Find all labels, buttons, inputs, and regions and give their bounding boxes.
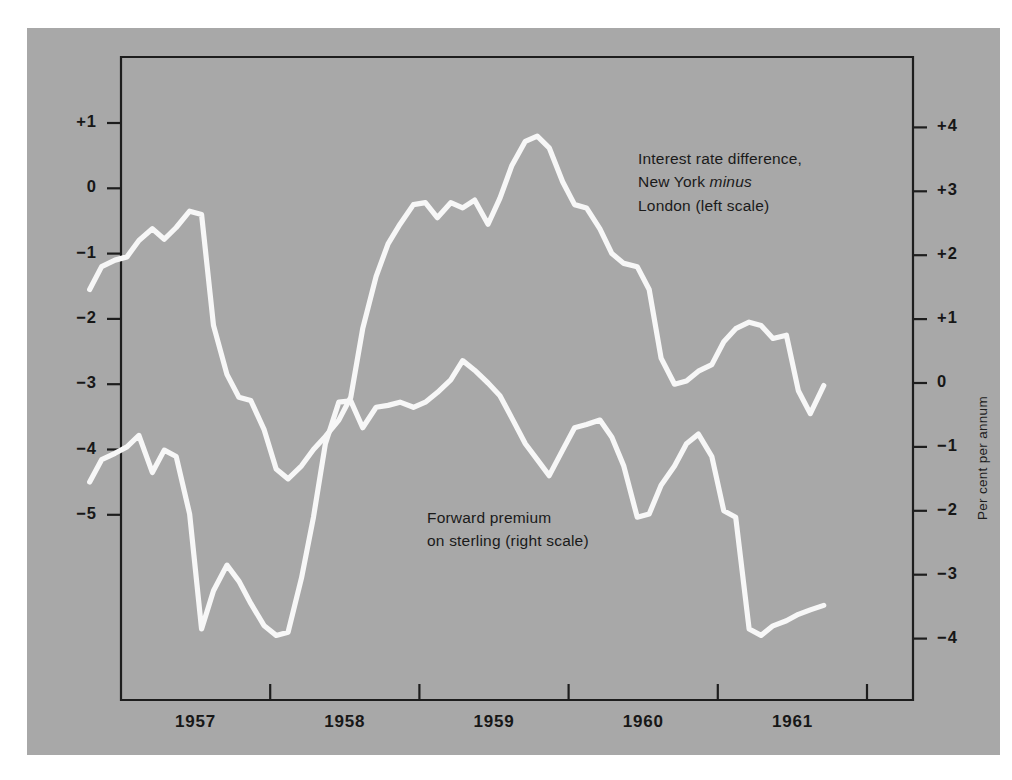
right-tick-label: −2 [937, 500, 983, 519]
chart-figure: Per cent per annum Per cent per annum +1… [0, 0, 1012, 780]
right-tick-label: −1 [937, 436, 983, 455]
left-tick-label: −5 [51, 504, 97, 523]
x-tick-label: 1961 [737, 712, 847, 732]
x-tick-label: 1960 [588, 712, 698, 732]
annotation-forward-line2: on sterling (right scale) [427, 529, 589, 552]
right-tick-label: +3 [937, 180, 983, 199]
left-tick-label: +1 [51, 112, 97, 131]
annotation-forward-line1: Forward premium [427, 506, 589, 529]
right-tick-label: +2 [937, 244, 983, 263]
series-forward-premium-line [90, 361, 824, 636]
x-tick-label: 1958 [290, 712, 400, 732]
left-tick-label: 0 [51, 177, 97, 196]
right-tick-label: +4 [937, 116, 983, 135]
right-tick-label: −4 [937, 628, 983, 647]
left-tick-label: −4 [51, 439, 97, 458]
x-tick-label: 1957 [141, 712, 251, 732]
annotation-forward-premium: Forward premium on sterling (right scale… [427, 506, 589, 553]
right-axis-ticks [913, 127, 927, 638]
left-tick-label: −2 [51, 308, 97, 327]
right-tick-label: +1 [937, 308, 983, 327]
left-tick-label: −3 [51, 373, 97, 392]
chart-plot-svg [0, 0, 1012, 780]
right-tick-label: 0 [937, 372, 983, 391]
annotation-interest-rate-difference: Interest rate difference, New York minus… [638, 147, 802, 217]
right-tick-label: −3 [937, 564, 983, 583]
left-tick-label: −1 [51, 243, 97, 262]
annotation-interest-line2: New York minus [638, 170, 802, 193]
annotation-interest-minus-emphasis: minus [710, 173, 752, 190]
annotation-interest-line2-text: New York [638, 173, 710, 190]
annotation-interest-line3: London (left scale) [638, 194, 802, 217]
annotation-interest-line1: Interest rate difference, [638, 147, 802, 170]
x-axis-ticks [270, 684, 867, 700]
x-tick-label: 1959 [439, 712, 549, 732]
